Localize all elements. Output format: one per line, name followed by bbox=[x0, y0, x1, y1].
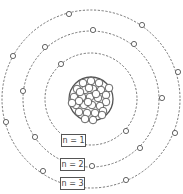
nucleon bbox=[75, 108, 83, 116]
electron-icon bbox=[175, 69, 180, 74]
electron-icon bbox=[137, 145, 142, 150]
electron-icon bbox=[131, 41, 136, 46]
nucleon bbox=[105, 84, 113, 92]
electron-icon bbox=[123, 128, 128, 133]
electron-icon bbox=[139, 22, 144, 27]
nucleon bbox=[68, 99, 76, 107]
nucleon bbox=[91, 109, 99, 117]
electron-icon bbox=[66, 11, 71, 16]
electron-icon bbox=[20, 88, 25, 93]
electron-icon bbox=[159, 95, 164, 100]
nucleon bbox=[92, 90, 100, 98]
nucleon bbox=[81, 115, 89, 123]
nucleon bbox=[76, 88, 84, 96]
electron-icon bbox=[123, 177, 128, 182]
orbit-label-n3: n = 3 bbox=[60, 177, 85, 190]
nucleon bbox=[89, 116, 97, 124]
electron-icon bbox=[172, 130, 177, 135]
nucleon bbox=[87, 77, 95, 85]
nucleon bbox=[75, 97, 83, 105]
orbit-label-n1: n = 1 bbox=[61, 134, 86, 147]
electron-icon bbox=[40, 168, 45, 173]
nucleon bbox=[98, 111, 106, 119]
electron-icon bbox=[42, 44, 47, 49]
electron-icon bbox=[32, 134, 37, 139]
nucleon bbox=[84, 98, 92, 106]
electron-icon bbox=[58, 61, 63, 66]
nucleon bbox=[85, 84, 93, 92]
bohr-atom-diagram bbox=[0, 0, 183, 194]
nucleon bbox=[102, 91, 110, 99]
nucleon bbox=[95, 79, 103, 87]
orbit-label-n2: n = 2 bbox=[60, 158, 85, 171]
electron-icon bbox=[10, 53, 15, 58]
electron-icon bbox=[90, 27, 95, 32]
electron-icon bbox=[3, 119, 8, 124]
electron-icon bbox=[89, 163, 94, 168]
